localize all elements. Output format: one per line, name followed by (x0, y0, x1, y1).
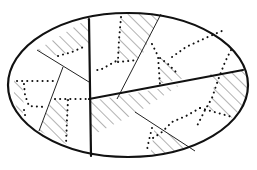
dotted-path-arrow (152, 44, 160, 85)
hatched-region-far-left (14, 80, 24, 118)
hatched-region-right (205, 70, 248, 118)
dotted-path-left-middle (24, 84, 44, 107)
dotted-path-top-center (94, 17, 121, 70)
dotted-path-left-lower (24, 110, 26, 120)
hatched-region-left-lower (39, 99, 68, 145)
dotted-path-lower-right-diag (150, 108, 200, 140)
hatched-region-center-lower (91, 85, 180, 136)
partitioned-ellipse-diagram (0, 0, 257, 170)
hatched-region-top-center (117, 14, 160, 62)
vertical-divider-line (89, 19, 91, 156)
hatched-region-center-arrow (158, 55, 185, 84)
dotted-path-bottom-vertical (147, 128, 152, 150)
